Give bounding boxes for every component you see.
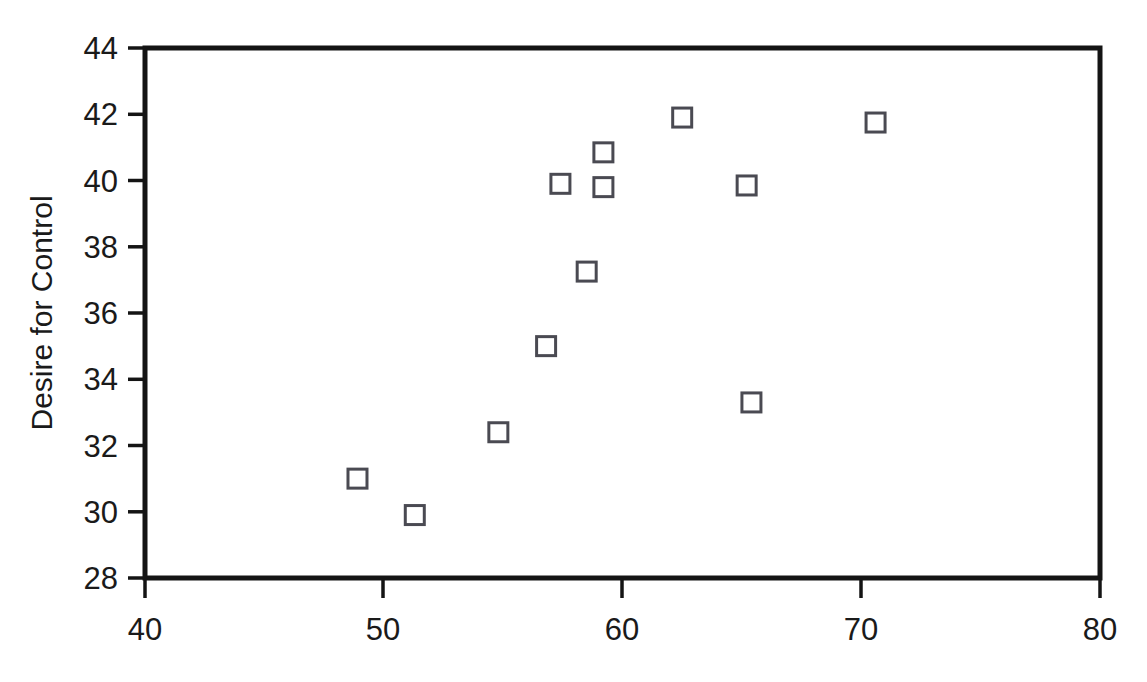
x-tick-label-40: 40 xyxy=(128,612,162,647)
y-tick-label-44: 44 xyxy=(84,31,118,66)
y-tick-label-34: 34 xyxy=(84,362,118,397)
x-tick-label-70: 70 xyxy=(844,612,878,647)
x-tick-label-50: 50 xyxy=(366,612,400,647)
y-tick-label-40: 40 xyxy=(84,164,118,199)
scatter-plot-figure: 44 42 40 38 36 34 32 30 28 40 50 60 70 8… xyxy=(0,0,1147,682)
x-tick-label-80: 80 xyxy=(1083,612,1117,647)
y-tick-label-30: 30 xyxy=(84,495,118,530)
x-tick-label-60: 60 xyxy=(605,612,639,647)
y-tick-label-32: 32 xyxy=(84,429,118,464)
y-axis-title: Desire for Control xyxy=(25,195,58,430)
y-tick-label-38: 38 xyxy=(84,230,118,265)
y-tick-label-28: 28 xyxy=(84,561,118,596)
y-tick-label-36: 36 xyxy=(84,296,118,331)
y-tick-label-42: 42 xyxy=(84,97,118,132)
y-axis-tick-labels: 44 42 40 38 36 34 32 30 28 xyxy=(84,31,118,596)
